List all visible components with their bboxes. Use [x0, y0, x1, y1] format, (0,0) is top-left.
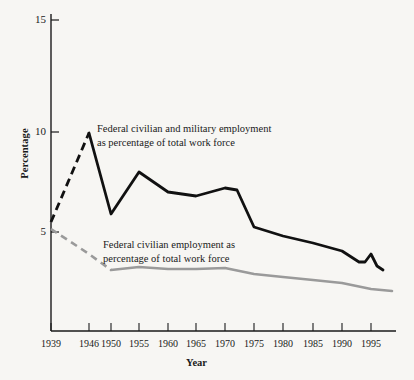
- series-civilian-solid: [111, 267, 392, 291]
- chart-figure: 15 10 5 1939 1946 1950 1955 1960 1965 19…: [0, 0, 414, 380]
- annotation-military-line1: Federal civilian and military employment: [97, 122, 271, 136]
- x-tick-label-1995: 1995: [354, 338, 388, 349]
- line-chart-plot: [0, 0, 414, 380]
- y-tick-label-15: 15: [22, 13, 46, 25]
- y-axis-title: Percentage: [19, 109, 30, 199]
- y-tick-marks: [51, 20, 59, 232]
- x-tick-label-1939: 1939: [34, 338, 68, 349]
- annotation-military: Federal civilian and military employment…: [97, 122, 271, 149]
- x-axis-title: Year: [186, 357, 207, 368]
- annotation-civilian: Federal civilian employment as percentag…: [103, 238, 235, 265]
- series-military-dashed: [51, 133, 89, 222]
- x-tick-marks: [51, 323, 371, 331]
- annotation-military-line2: as percentage of total work force: [97, 136, 271, 150]
- annotation-civilian-line2: percentage of total work force: [103, 252, 235, 266]
- y-tick-label-5: 5: [22, 225, 46, 237]
- series-civilian-dashed: [51, 229, 111, 270]
- annotation-civilian-line1: Federal civilian employment as: [103, 238, 235, 252]
- x-tick-label-1980: 1980: [266, 338, 300, 349]
